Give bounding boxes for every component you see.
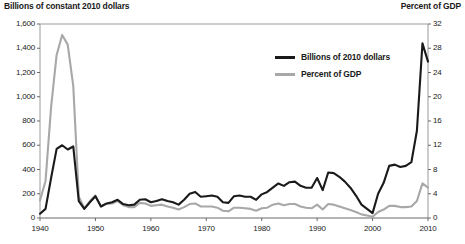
y-tick-label-left: 1,400 — [16, 43, 35, 52]
y-tick-label-right: 28 — [433, 43, 442, 52]
y-tick-label-right: 12 — [433, 140, 442, 149]
deficit-chart: Billions of constant 2010 dollars Percen… — [0, 0, 465, 244]
x-tick-label: 2010 — [406, 224, 450, 233]
y-tick-label-left: 0 — [31, 213, 35, 222]
y-tick-label-right: 24 — [433, 68, 442, 77]
x-tick-label: 1950 — [73, 224, 117, 233]
plot-area — [0, 0, 465, 244]
x-tick-label: 1960 — [129, 224, 173, 233]
legend-swatch-dollars — [275, 56, 295, 59]
y-tick-label-right: 20 — [433, 92, 442, 101]
legend-label-dollars: Billions of 2010 dollars — [301, 52, 390, 62]
y-tick-label-right: 4 — [433, 189, 437, 198]
y-tick-label-left: 600 — [22, 140, 35, 149]
y-tick-label-left: 1,600 — [16, 19, 35, 28]
y-tick-label-left: 1,200 — [16, 68, 35, 77]
x-tick-label: 1990 — [295, 224, 339, 233]
legend-label-percent: Percent of GDP — [301, 69, 361, 79]
y-tick-label-left: 200 — [22, 189, 35, 198]
series-line-dollars — [40, 43, 428, 213]
x-tick-label: 1980 — [240, 224, 284, 233]
y-tick-label-left: 1,000 — [16, 92, 35, 101]
y-tick-label-right: 32 — [433, 19, 442, 28]
y-tick-label-right: 8 — [433, 165, 437, 174]
y-tick-label-left: 400 — [22, 165, 35, 174]
y-tick-label-right: 0 — [433, 213, 437, 222]
x-tick-label: 1940 — [18, 224, 62, 233]
y-tick-label-left: 800 — [22, 116, 35, 125]
legend-swatch-percent — [275, 73, 295, 76]
x-tick-label: 2000 — [351, 224, 395, 233]
series-line-percent — [40, 35, 428, 217]
y-tick-label-right: 16 — [433, 116, 442, 125]
x-tick-label: 1970 — [184, 224, 228, 233]
